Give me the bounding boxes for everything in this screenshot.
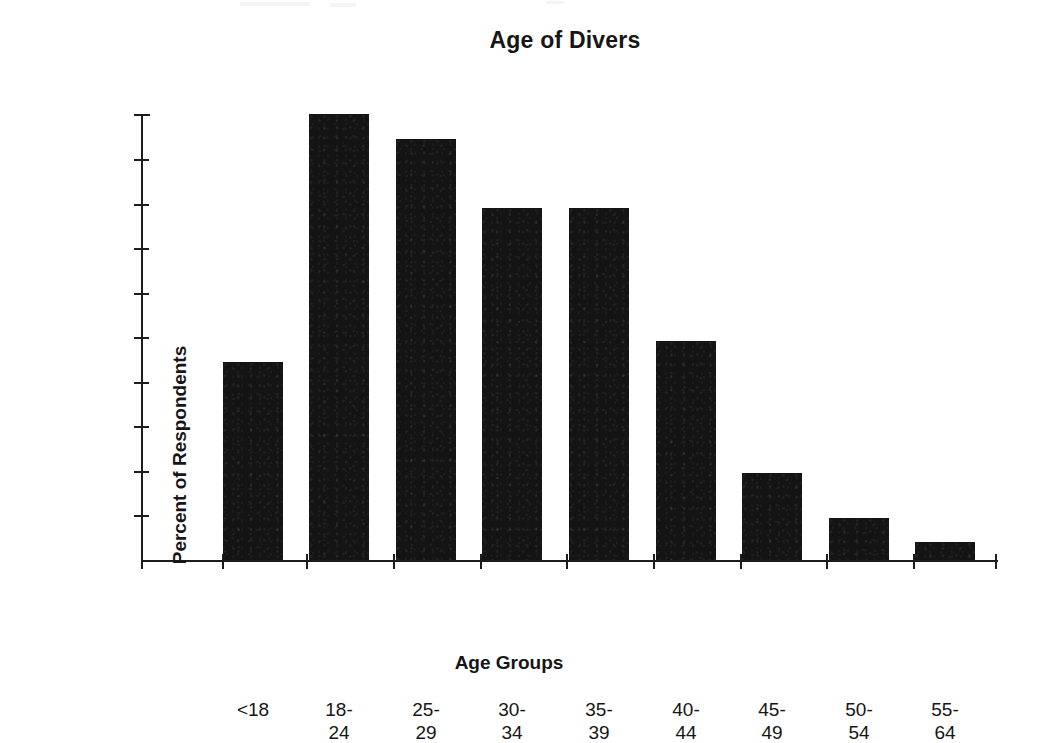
scan-artifact: [240, 2, 310, 6]
bar-6: [742, 473, 802, 560]
y-axis-tick: [134, 426, 149, 428]
bar-1: [309, 114, 369, 560]
scan-artifact: [546, 1, 564, 4]
x-axis-tick: [826, 554, 828, 569]
bar-0: [223, 362, 283, 560]
y-axis-tick: [134, 382, 149, 384]
x-axis-tick: [566, 554, 568, 569]
chart-title: Age of Divers: [0, 27, 1038, 54]
x-axis-label-line2: 64: [885, 721, 1005, 743]
x-axis-tick: [306, 554, 308, 569]
plot-area: 20% 18% 16% 14% 12% 10% 8% 6% 4% 2% 0%: [142, 115, 997, 561]
y-axis-tick: [134, 114, 150, 116]
y-axis-tick: [134, 337, 149, 339]
bar-3: [482, 208, 542, 560]
x-axis-title: Age Groups: [0, 652, 1038, 674]
bar-2: [396, 139, 456, 560]
x-axis-tick: [393, 554, 395, 569]
y-axis-tick: [134, 248, 149, 250]
bar-5: [656, 341, 716, 560]
chart-title-text: Age of Divers: [490, 27, 641, 54]
bar-7: [829, 518, 889, 560]
scan-artifact: [330, 3, 356, 7]
x-axis-label-line1: 55-: [885, 698, 1005, 721]
x-axis-label-8: 55- 64: [885, 698, 1005, 743]
y-axis-tick: [134, 471, 149, 473]
x-axis-tick: [653, 554, 655, 569]
y-axis-tick: [134, 204, 149, 206]
bar-4: [569, 208, 629, 560]
y-axis-tick: [134, 293, 149, 295]
bar-8: [915, 542, 975, 560]
x-axis-tick: [995, 554, 997, 569]
x-axis-line: [141, 560, 998, 562]
x-axis-title-text: Age Groups: [455, 652, 564, 674]
y-axis-tick: [134, 515, 149, 517]
y-axis-tick: [134, 159, 149, 161]
x-axis-tick: [141, 554, 143, 569]
